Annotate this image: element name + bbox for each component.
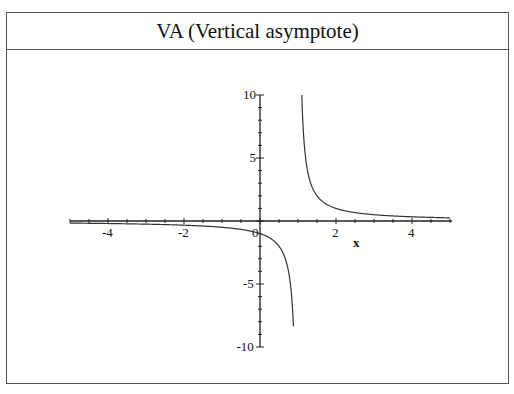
function-curve — [302, 95, 450, 218]
x-tick-label: 2 — [332, 225, 339, 240]
y-tick-label: -10 — [237, 339, 254, 354]
x-axis-label: x — [353, 235, 360, 250]
y-tick-label: 10 — [243, 87, 256, 102]
y-tick-label: -5 — [243, 276, 254, 291]
plot-area: -4-2024-10-5510x — [0, 0, 514, 394]
x-tick-label: 4 — [408, 225, 415, 240]
x-tick-label: -4 — [102, 225, 113, 240]
y-tick-label: 5 — [250, 150, 257, 165]
x-tick-label: -2 — [178, 225, 189, 240]
